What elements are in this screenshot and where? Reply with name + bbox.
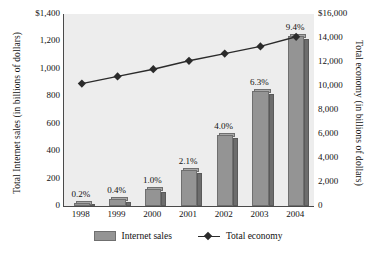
bar-value-label: 2.1%	[165, 156, 211, 166]
y-axis-left-tick-label: 800	[16, 90, 60, 100]
chart-figure: Total Internet sales (in billions of dol…	[0, 0, 380, 255]
line-series	[64, 14, 314, 206]
y-axis-right-tick-label: 0	[318, 200, 364, 210]
chart-legend: Internet sales Total economy	[63, 228, 313, 244]
y-axis-left-tick-label: 1,200	[16, 35, 60, 45]
legend-bar-swatch-icon	[94, 231, 116, 241]
y-axis-left-tick-label: 600	[16, 118, 60, 128]
plot-inner	[64, 14, 314, 206]
y-axis-right-tick-label: 10,000	[318, 80, 364, 90]
line-marker-diamond-icon	[256, 42, 264, 50]
plot-area	[63, 14, 314, 207]
line-marker-diamond-icon	[221, 49, 229, 57]
bar-value-label: 9.4%	[272, 22, 318, 32]
line-marker-diamond-icon	[113, 72, 121, 80]
y-axis-right-tick-label: $16,000	[318, 8, 364, 18]
y-axis-right-tick-label: 6,000	[318, 128, 364, 138]
bar-value-label: 0.4%	[94, 185, 140, 195]
line-marker-diamond-icon	[185, 57, 193, 65]
bar-value-label: 4.0%	[201, 121, 247, 131]
legend-item-total-economy: Total economy	[198, 231, 283, 241]
legend-label-total-economy: Total economy	[226, 231, 283, 241]
y-axis-right-tick-label: 12,000	[318, 56, 364, 66]
y-axis-left-tick-label: 1,000	[16, 63, 60, 73]
y-axis-left-tick-label: 0	[16, 200, 60, 210]
line-marker-diamond-icon	[78, 79, 86, 87]
y-axis-left-tick-label: $1,400	[16, 8, 60, 18]
y-axis-right-tick-label: 2,000	[318, 176, 364, 186]
y-axis-left-tick-label: 400	[16, 145, 60, 155]
y-axis-right-tick-label: 14,000	[318, 32, 364, 42]
y-axis-left-tick-label: 200	[16, 173, 60, 183]
x-axis-tick-label: 2004	[273, 209, 317, 219]
legend-line-swatch-icon	[198, 232, 220, 240]
line-marker-diamond-icon	[149, 65, 157, 73]
y-axis-right-tick-label: 4,000	[318, 152, 364, 162]
bar-value-label: 6.3%	[236, 77, 282, 87]
legend-item-internet-sales: Internet sales	[94, 231, 172, 241]
y-axis-right-tick-label: 8,000	[318, 104, 364, 114]
line-marker-diamond-icon	[292, 33, 300, 41]
legend-label-internet-sales: Internet sales	[122, 231, 172, 241]
bar-value-label: 1.0%	[129, 175, 175, 185]
